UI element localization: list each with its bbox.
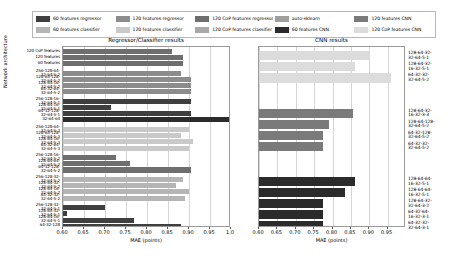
bar [63, 133, 181, 138]
legend-item[interactable]: 120 CoP features classifier [195, 25, 273, 35]
bar [63, 71, 181, 76]
legend-item[interactable]: 120 features regressor [116, 14, 194, 24]
legend-item[interactable]: 120 CoP features CNN [354, 25, 432, 35]
legend-swatch [116, 16, 130, 22]
bar [63, 196, 185, 201]
figure-canvas: 60 features regressor120 features regres… [0, 0, 467, 269]
y-tick-labels-right: 128-64-32- 32-64-5-1128-64-32- 16-32-5-1… [405, 46, 467, 227]
bar [63, 139, 193, 144]
bar [63, 61, 183, 66]
y-tick-label: 128-64-32- 16-32-3-3 [408, 109, 432, 118]
x-tick-label: 0.60 [252, 229, 263, 235]
legend-swatch [275, 27, 289, 33]
y-tick-labels-left: 120 CoP features120 features60 features2… [2, 46, 62, 227]
panel-cnn: CNN results 128-64-32- 32-64-5-1128-64-3… [258, 46, 405, 227]
legend-item[interactable]: 120 features CNN [354, 14, 432, 24]
legend-swatch [275, 16, 289, 22]
y-tick-label: 64-32-128 [40, 223, 60, 227]
legend-swatch [354, 16, 368, 22]
y-tick-label: 128-64-128- 32-64-5-2 [408, 120, 435, 129]
legend-swatch [36, 16, 50, 22]
bar [259, 62, 355, 71]
bar [63, 218, 134, 223]
legend-label: 120 CoP features CNN [371, 27, 421, 33]
y-tick-label: 120 features [35, 55, 60, 59]
x-tick-label: 0.85 [344, 229, 355, 235]
y-tick-label: 64-32-64- 16-32-3-1 [408, 210, 429, 219]
bar [259, 51, 369, 60]
y-tick-label: 128-64-64- 16-32-5-1 [408, 188, 432, 197]
bar [259, 199, 323, 208]
x-tick-label: 0.75 [119, 229, 130, 235]
bar [259, 120, 329, 129]
x-tick-label: 0.75 [308, 229, 319, 235]
legend-item[interactable]: auto-sklearn [275, 14, 353, 24]
x-tick-label: 0.95 [203, 229, 214, 235]
y-tick-label: 60 features [38, 61, 60, 65]
legend-label: 120 features CNN [371, 16, 411, 22]
x-tick-label: 0.70 [98, 229, 109, 235]
bar [63, 161, 130, 166]
plot-area-right [258, 46, 405, 227]
legend-label: 120 features classifier [133, 27, 183, 33]
bar [259, 142, 323, 151]
x-tick-label: 1.0 [226, 229, 234, 235]
x-axis-label-left: MAE (points) [62, 237, 230, 243]
legend-label: 120 CoP features classifier [212, 27, 272, 33]
legend-item[interactable]: 60 features regressor [36, 14, 114, 24]
y-tick-label: 64-32-64- 32-64-5-2 [41, 87, 60, 95]
bar [63, 49, 172, 54]
y-tick-label: 64-32-128- 32-64-5-2 [408, 131, 432, 140]
bar [63, 211, 67, 216]
bar [259, 131, 323, 140]
panel-left-title: Regressor/Classifier results [62, 36, 230, 44]
y-tick-label: 64-32-128- 32-64-5-2 [38, 165, 60, 173]
bar [63, 77, 191, 82]
legend-swatch [354, 27, 368, 33]
bar [63, 99, 191, 104]
x-tick-label: 0.90 [363, 229, 374, 235]
legend-label: 120 features regressor [133, 16, 184, 22]
y-tick-label: 64-32-32- 32-64-5-2 [408, 73, 429, 82]
x-tick-label: 0.80 [140, 229, 151, 235]
panel-right-title: CNN results [258, 36, 405, 44]
bar [63, 117, 229, 122]
y-tick-label: 64-32-32- 32-64-5-2 [408, 142, 429, 151]
bar [63, 183, 176, 188]
y-tick-label: 120 CoP features [26, 49, 60, 53]
legend-label: 60 features classifier [53, 27, 100, 33]
legend-swatch [195, 27, 209, 33]
legend-label: auto-sklearn [292, 16, 320, 22]
legend-swatch [116, 27, 130, 33]
bar [63, 127, 189, 132]
legend-item[interactable]: 60 features classifier [36, 25, 114, 35]
bar [63, 55, 183, 60]
legend-swatch [195, 16, 209, 22]
bar [63, 205, 105, 210]
x-tick-label: 0.90 [182, 229, 193, 235]
y-tick-label: 128-64-32- 32-64-5-1 [408, 51, 432, 60]
legend-swatch [36, 27, 50, 33]
bar [259, 177, 355, 186]
legend-item[interactable]: 60 features CNN [275, 25, 353, 35]
x-tick-label: 0.65 [77, 229, 88, 235]
legend-label: 60 features regressor [53, 16, 101, 22]
y-tick-label: 64-32-64- 32-64-5-3 [41, 143, 60, 151]
bars-left [63, 47, 229, 226]
bar [63, 155, 116, 160]
y-tick-label: 64-32-32- 32-64-5-2 [41, 193, 60, 201]
panel-regressor-classifier: Regressor/Classifier results 120 CoP fea… [62, 46, 230, 227]
bar [63, 146, 189, 151]
x-tick-label: 0.95 [381, 229, 392, 235]
y-tick-label: 128-64-32- 32-64-3-2 [408, 199, 432, 208]
bar [63, 189, 189, 194]
chart-legend: 60 features regressor120 features regres… [32, 11, 436, 38]
y-tick-label: 32-64-64 [42, 117, 60, 121]
bar [259, 210, 323, 219]
bar [63, 83, 191, 88]
legend-item[interactable]: 120 CoP features regressor [195, 14, 273, 24]
legend-label: 120 CoP features regressor [212, 16, 273, 22]
legend-item[interactable]: 120 features classifier [116, 25, 194, 35]
x-axis-label-right: MAE (points) [258, 237, 405, 243]
bar [63, 105, 111, 110]
